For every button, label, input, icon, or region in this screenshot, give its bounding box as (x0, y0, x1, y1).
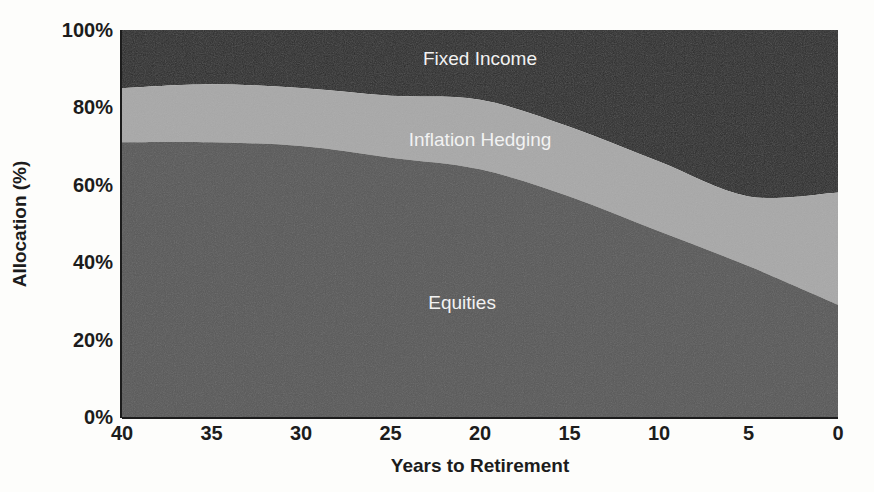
x-axis-title: Years to Retirement (391, 455, 570, 476)
y-tick-60pct: 60% (73, 174, 113, 196)
x-tick-10: 10 (648, 422, 670, 444)
y-axis-title: Allocation (%) (9, 161, 30, 288)
x-tick-40: 40 (111, 422, 133, 444)
chart-figure: 0%20%40%60%80%100% 4035302520151050 Year… (0, 0, 874, 492)
y-tick-20pct: 20% (73, 329, 113, 351)
stacked-areas (122, 30, 838, 417)
x-tick-5: 5 (743, 422, 754, 444)
x-tick-20: 20 (469, 422, 491, 444)
x-tick-15: 15 (558, 422, 580, 444)
x-tick-30: 30 (290, 422, 312, 444)
series-label-equities: Equities (428, 292, 496, 313)
y-tick-100pct: 100% (62, 19, 113, 41)
x-tick-35: 35 (200, 422, 222, 444)
x-tick-0: 0 (832, 422, 843, 444)
y-tick-40pct: 40% (73, 251, 113, 273)
series-label-fixed-income: Fixed Income (423, 48, 537, 69)
allocation-area-chart: 0%20%40%60%80%100% 4035302520151050 Year… (0, 0, 874, 492)
x-tick-25: 25 (379, 422, 401, 444)
series-label-inflation-hedging: Inflation Hedging (409, 129, 552, 150)
y-tick-0pct: 0% (84, 406, 113, 428)
y-tick-80pct: 80% (73, 96, 113, 118)
